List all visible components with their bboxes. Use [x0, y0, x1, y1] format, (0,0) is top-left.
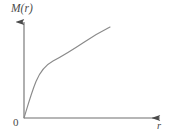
y-axis-label: M(r) [11, 3, 33, 15]
origin-label: 0 [13, 117, 19, 128]
chart-canvas [0, 0, 178, 138]
x-axis-label: r [157, 121, 161, 132]
axes-group [24, 22, 160, 118]
curve-m-of-r [24, 27, 110, 118]
figure-container: M(r) r 0 [0, 0, 178, 138]
data-series-group [24, 27, 110, 118]
